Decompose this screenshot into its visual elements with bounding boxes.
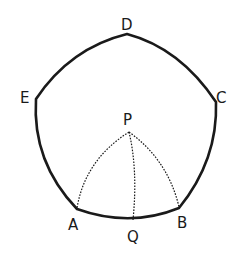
label-p: P [123, 111, 132, 129]
label-q: Q [127, 228, 139, 246]
arc-p-b [129, 132, 179, 207]
label-a: A [68, 216, 79, 234]
arc-p-q [129, 132, 135, 220]
label-b: B [177, 214, 187, 232]
label-c: C [216, 89, 226, 107]
label-e: E [20, 89, 29, 107]
pentagon-diagram: D E C P A Q B [0, 0, 245, 259]
label-d: D [121, 16, 133, 34]
arc-p-a [77, 132, 129, 208]
